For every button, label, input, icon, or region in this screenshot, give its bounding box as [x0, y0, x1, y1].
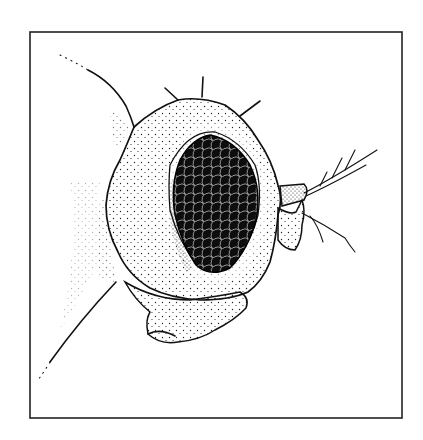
- insect-head-illustration: [0, 0, 423, 440]
- antenna-arista: [278, 150, 377, 252]
